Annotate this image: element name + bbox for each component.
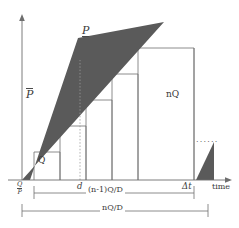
- total-height-label: nQ: [166, 90, 179, 99]
- step-width-label: d: [77, 182, 82, 191]
- first-step-label: Q: [38, 156, 45, 165]
- fraction-denominator: P: [17, 188, 22, 196]
- lower-bound-symbol: P: [82, 25, 89, 37]
- dimension-inner-label: (n-1)Q/D: [86, 186, 125, 194]
- upper-bound-symbol: P: [26, 88, 33, 100]
- step-3: [86, 100, 112, 180]
- step-4: [112, 74, 138, 180]
- vertical-axis-arrow: [19, 14, 25, 21]
- figure-root: P P Q nQ Δt time d Q P ...... (n-1)Q/D n…: [0, 0, 239, 228]
- next-cycle-triangle: [196, 142, 214, 180]
- origin-fraction-label: Q P: [17, 181, 22, 195]
- delta-t-label: Δt: [182, 182, 192, 191]
- upper-bound-label: P: [26, 88, 33, 100]
- dimension-outer-label: nQ/D: [100, 204, 125, 212]
- step-5: [138, 48, 194, 180]
- fraction-numerator: Q: [17, 181, 22, 188]
- time-axis-label: time: [212, 183, 230, 191]
- ellipsis-label: ......: [196, 136, 218, 144]
- lower-bound-label: P: [82, 25, 89, 37]
- step-2: [60, 126, 86, 180]
- origin-fraction: Q P: [17, 181, 22, 195]
